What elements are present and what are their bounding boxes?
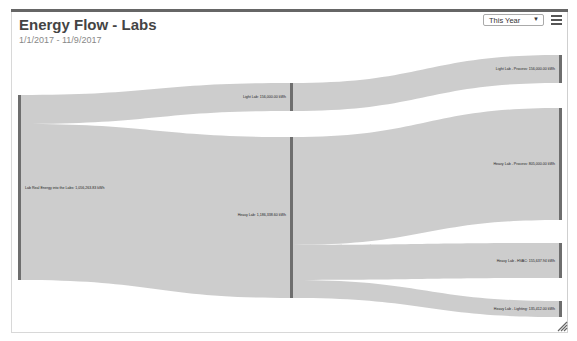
link-light-process[interactable]: [293, 55, 559, 111]
link-heavy-lighting[interactable]: [293, 280, 559, 317]
node-light-process[interactable]: [559, 55, 562, 83]
label-heavy-hvac: Heavy Lab - HVAC: 155,637.94 kWh: [497, 259, 555, 263]
resize-handle-icon[interactable]: [556, 320, 568, 332]
node-light-lab[interactable]: [290, 83, 293, 111]
node-heavy-hvac[interactable]: [559, 243, 562, 278]
sankey-diagram: Lab Real Energy into the Labs: 1,056,263…: [0, 0, 577, 341]
label-source: Lab Real Energy into the Labs: 1,056,263…: [25, 186, 105, 190]
label-heavy-lighting: Heavy Lab - Lighting: 135,412.00 kWh: [494, 307, 555, 311]
node-source[interactable]: [18, 95, 21, 280]
node-heavy-lab[interactable]: [290, 137, 293, 298]
node-heavy-process[interactable]: [559, 108, 562, 220]
link-source-light[interactable]: [21, 83, 290, 124]
link-heavy-process[interactable]: [293, 108, 559, 245]
label-heavy-lab: Heavy Lab: 1,186,338.60 kWh: [238, 213, 286, 217]
label-light-process: Light Lab - Process: 156,000.00 kWh: [496, 67, 555, 71]
label-heavy-process: Heavy Lab - Process: 805,000.00 kWh: [493, 162, 555, 166]
node-heavy-lighting[interactable]: [559, 301, 562, 317]
link-source-heavy[interactable]: [21, 124, 290, 298]
label-light-lab: Light Lab: 156,000.00 kWh: [243, 95, 286, 99]
